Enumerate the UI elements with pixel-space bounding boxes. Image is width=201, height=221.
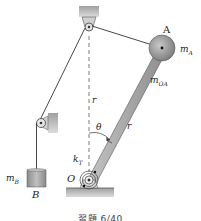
label-r-upper: r [92,96,96,105]
label-r-bar: r [127,122,131,131]
cable-to-side-pulley [40,28,85,120]
label-mB-sub: B [15,178,19,185]
label-mA: mA [180,45,193,56]
mass-B-block [27,169,46,188]
figure-caption: 習題 6/40 [0,212,201,221]
pivot-O-spring [80,171,98,189]
label-mA-sub: A [189,49,193,56]
bar-OA [86,48,166,187]
label-mA-main: m [180,44,189,54]
mass-A-sphere [149,35,175,61]
label-mOA-sub: OA [159,80,168,87]
label-theta: θ [96,123,101,132]
label-mB-main: m [6,173,15,183]
label-mOA-main: m [150,75,159,85]
label-mOA: mOA [150,76,168,87]
label-A: A [163,25,170,35]
label-B: B [32,190,39,200]
label-O: O [67,174,75,184]
mechanism-diagram [0,0,201,221]
label-mB: mB [6,174,19,185]
side-pulley [37,113,59,133]
label-kT-sub: T [78,159,82,166]
label-kT: kT [73,155,82,166]
ground-O [66,188,114,197]
